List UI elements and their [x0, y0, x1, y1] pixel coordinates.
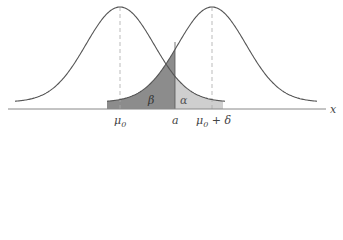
- subscript-zero: 0: [121, 120, 126, 129]
- alpha-label: α: [180, 94, 187, 107]
- plus-delta: + δ: [208, 114, 231, 127]
- tick-label-a: a: [172, 114, 179, 127]
- beta-label: β: [148, 94, 154, 107]
- axis-label-x: x: [330, 103, 336, 116]
- tick-label-mu0-delta: μ0 + δ: [196, 114, 231, 129]
- tick-label-mu0: μ0: [114, 114, 126, 129]
